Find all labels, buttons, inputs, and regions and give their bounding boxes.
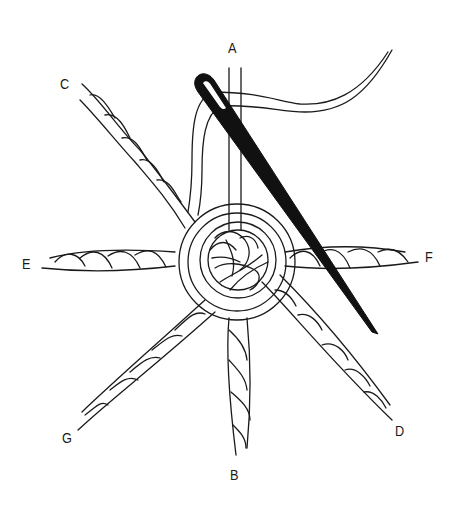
spoke-c: [80, 84, 195, 228]
spoke-b: [228, 318, 250, 455]
label-a: A: [228, 40, 237, 55]
spoke-e: [42, 250, 175, 271]
label-f: F: [425, 249, 433, 264]
label-g: G: [62, 430, 72, 445]
label-e: E: [22, 256, 31, 271]
spoke-f: [285, 247, 418, 269]
label-b: B: [230, 467, 239, 482]
spoke-d: [262, 275, 392, 420]
label-d: D: [395, 423, 404, 438]
label-c: C: [60, 76, 69, 91]
thread: [188, 50, 392, 215]
weaving-illustration: A C E F G B D: [0, 0, 454, 510]
spoke-g: [78, 300, 215, 430]
